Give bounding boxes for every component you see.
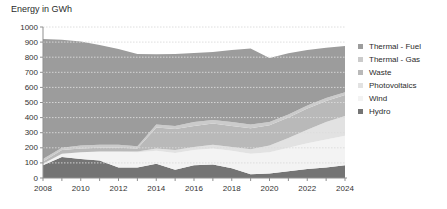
legend-item-wind: Wind [358,92,421,105]
legend-label-waste: Waste [369,68,391,77]
legend-item-thermal-gas: Thermal - Gas [358,53,421,66]
legend-label-photovoltaics: Photovoltaics [369,81,417,90]
x-tick-label: 2020 [261,184,279,193]
y-tick-label: 800 [25,53,39,62]
legend-label-thermal-fuel: Thermal - Fuel [369,42,421,51]
x-tick-label: 2016 [185,184,203,193]
y-tick-label: 0 [34,174,39,183]
legend-item-waste: Waste [358,66,421,79]
legend-label-hydro: Hydro [369,107,390,116]
x-tick-label: 2010 [72,184,90,193]
legend-swatch-hydro [358,109,363,114]
legend-item-photovoltaics: Photovoltaics [358,79,421,92]
x-tick-label: 2018 [223,184,241,193]
y-tick-label: 200 [25,143,39,152]
chart-legend: Thermal - FuelThermal - GasWastePhotovol… [358,40,421,118]
y-tick-label: 100 [25,158,39,167]
y-tick-label: 400 [25,113,39,122]
y-tick-label: 900 [25,38,39,47]
x-tick-label: 2012 [110,184,128,193]
legend-label-wind: Wind [369,94,387,103]
legend-swatch-thermal-fuel [358,44,363,49]
legend-label-thermal-gas: Thermal - Gas [369,55,420,64]
y-tick-label: 600 [25,83,39,92]
legend-swatch-waste [358,70,363,75]
legend-swatch-photovoltaics [358,83,363,88]
legend-swatch-thermal-gas [358,57,363,62]
legend-item-hydro: Hydro [358,105,421,118]
x-tick-label: 2024 [336,184,354,193]
y-tick-label: 1000 [20,23,38,32]
y-tick-label: 500 [25,98,39,107]
x-tick-label: 2008 [34,184,52,193]
x-tick-label: 2014 [147,184,165,193]
y-tick-label: 300 [25,128,39,137]
x-tick-label: 2022 [298,184,316,193]
energy-chart-panel: Energy in GWh 01002003004005006007008009… [0,0,447,209]
legend-swatch-wind [358,96,363,101]
y-tick-label: 700 [25,68,39,77]
legend-item-thermal-fuel: Thermal - Fuel [358,40,421,53]
